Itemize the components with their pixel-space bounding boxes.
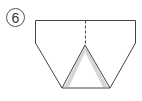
origami-diagram: [0, 0, 142, 101]
fold-shading: [64, 46, 108, 87]
